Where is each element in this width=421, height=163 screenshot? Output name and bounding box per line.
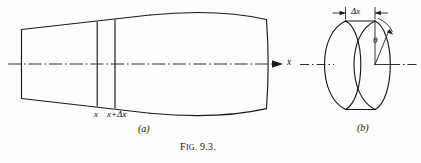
caption-smallcaps: IG. bbox=[186, 143, 197, 152]
panel-a-bottom-cone-flank bbox=[22, 99, 151, 114]
panel-a-slice-left-label: x bbox=[94, 110, 98, 119]
panel-b-dim-arrowhead-right bbox=[375, 11, 381, 15]
panel-a-slice-right-label: x+Δx bbox=[107, 110, 126, 119]
panel-b-disk bbox=[325, 21, 391, 110]
figure-9-3: x x x+Δx (a) Δx θ (b) FIG. 9.3. bbox=[0, 0, 421, 163]
panel-b-front-rim-right bbox=[375, 21, 390, 110]
panel-a-axis-arrowhead bbox=[272, 60, 283, 67]
caption-number: 9.3. bbox=[197, 141, 216, 152]
panel-b-angle-label: θ bbox=[373, 36, 377, 45]
panel-a-top-cone-flank bbox=[22, 15, 151, 30]
panel-b-front-rim-left bbox=[354, 21, 375, 110]
panel-a-axis-label: x bbox=[287, 58, 291, 68]
panel-a-centerline-axis bbox=[8, 60, 283, 67]
panel-b-dim-arrowhead-left bbox=[340, 11, 346, 15]
panel-b-back-rim-right bbox=[346, 21, 361, 110]
figure-drawing-canvas bbox=[0, 0, 421, 163]
panel-a-bottom-barrel-curve bbox=[150, 109, 267, 116]
panel-a-top-barrel-curve bbox=[150, 13, 267, 20]
panel-a-part-label: (a) bbox=[138, 124, 150, 134]
panel-b-part-label: (b) bbox=[357, 123, 369, 133]
panel-b-thickness-label: Δx bbox=[351, 7, 360, 16]
panel-b-back-rim-left bbox=[325, 21, 346, 110]
figure-caption: FIG. 9.3. bbox=[180, 142, 216, 152]
